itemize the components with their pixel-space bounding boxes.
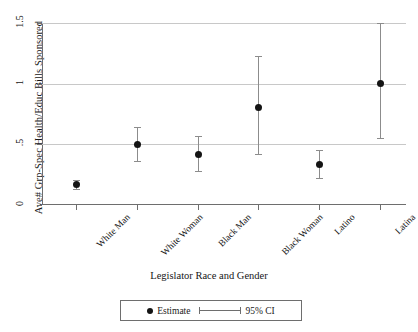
y-tick-mark bbox=[37, 144, 42, 145]
gridline bbox=[42, 144, 406, 145]
estimate-point bbox=[377, 80, 384, 87]
x-tick-mark bbox=[258, 205, 259, 210]
x-tick-mark bbox=[198, 205, 199, 210]
legend-label-ci: 95% CI bbox=[245, 306, 274, 316]
x-axis-line bbox=[42, 204, 406, 205]
chart-container: Ave# Grp-Spec Health/Educ Bills Sponsore… bbox=[0, 0, 418, 332]
ci-cap bbox=[316, 150, 323, 151]
y-tick-mark bbox=[37, 84, 42, 85]
ci-cap bbox=[134, 161, 141, 162]
chart-legend: Estimate 95% CI bbox=[120, 300, 302, 321]
estimate-point bbox=[134, 141, 141, 148]
x-axis-title: Legislator Race and Gender bbox=[0, 270, 418, 281]
y-tick-label-05: .5 bbox=[14, 128, 25, 158]
ci-cap bbox=[255, 56, 262, 57]
y-tick-label-1: 1 bbox=[14, 67, 25, 97]
ci-cap bbox=[134, 127, 141, 128]
ci-cap bbox=[195, 136, 202, 137]
x-tick-mark bbox=[380, 205, 381, 210]
y-tick-label-0: 0 bbox=[14, 189, 25, 219]
x-tick-mark bbox=[137, 205, 138, 210]
y-axis-line bbox=[42, 23, 43, 205]
ci-cap bbox=[195, 171, 202, 172]
plot-area bbox=[42, 23, 406, 205]
legend-entry-ci: 95% CI bbox=[199, 306, 274, 316]
x-tick-label: White Woman bbox=[159, 212, 205, 258]
gridline bbox=[42, 84, 406, 85]
estimate-point bbox=[255, 104, 262, 111]
estimate-point bbox=[73, 181, 80, 188]
legend-entry-estimate: Estimate bbox=[147, 306, 190, 316]
x-tick-label: Latino bbox=[332, 212, 357, 237]
x-tick-mark bbox=[319, 205, 320, 210]
y-tick-label-15: 1.5 bbox=[14, 7, 25, 37]
x-tick-label: White Man bbox=[95, 212, 132, 249]
x-tick-label: Latina bbox=[393, 212, 417, 236]
ci-cap bbox=[255, 154, 262, 155]
x-tick-label: Black Woman bbox=[280, 212, 325, 257]
legend-dot-icon bbox=[147, 308, 153, 314]
legend-ci-icon bbox=[199, 307, 241, 314]
gridline bbox=[42, 23, 406, 24]
ci-cap bbox=[377, 138, 384, 139]
estimate-point bbox=[316, 161, 323, 168]
y-tick-mark bbox=[37, 23, 42, 24]
x-tick-label: Black Man bbox=[216, 212, 253, 249]
ci-cap bbox=[73, 189, 80, 190]
ci-cap bbox=[316, 178, 323, 179]
x-tick-mark bbox=[76, 205, 77, 210]
estimate-point bbox=[195, 151, 202, 158]
ci-cap bbox=[377, 23, 384, 24]
y-tick-mark bbox=[37, 205, 42, 206]
legend-label-estimate: Estimate bbox=[157, 306, 190, 316]
